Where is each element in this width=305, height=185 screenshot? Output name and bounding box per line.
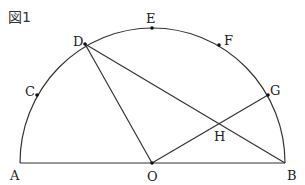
label-H: H (214, 129, 225, 144)
figure-title: 図1 (8, 9, 31, 25)
point-F (217, 43, 221, 47)
point-O (150, 161, 154, 165)
label-F: F (224, 33, 233, 48)
segment-DB (85, 44, 285, 163)
label-B: B (287, 168, 297, 183)
label-A: A (9, 168, 20, 183)
label-G: G (270, 83, 280, 98)
label-O: O (147, 169, 158, 184)
point-E (150, 26, 154, 30)
geometry-diagram: 図1 A O B C D E F G H (0, 0, 305, 185)
segment-OG (152, 95, 268, 163)
segment-DO (85, 44, 152, 163)
label-C: C (25, 84, 35, 99)
label-E: E (146, 11, 156, 26)
label-D: D (73, 34, 83, 49)
point-C (35, 93, 39, 97)
point-D (83, 42, 87, 46)
semicircle-arc (20, 28, 285, 163)
